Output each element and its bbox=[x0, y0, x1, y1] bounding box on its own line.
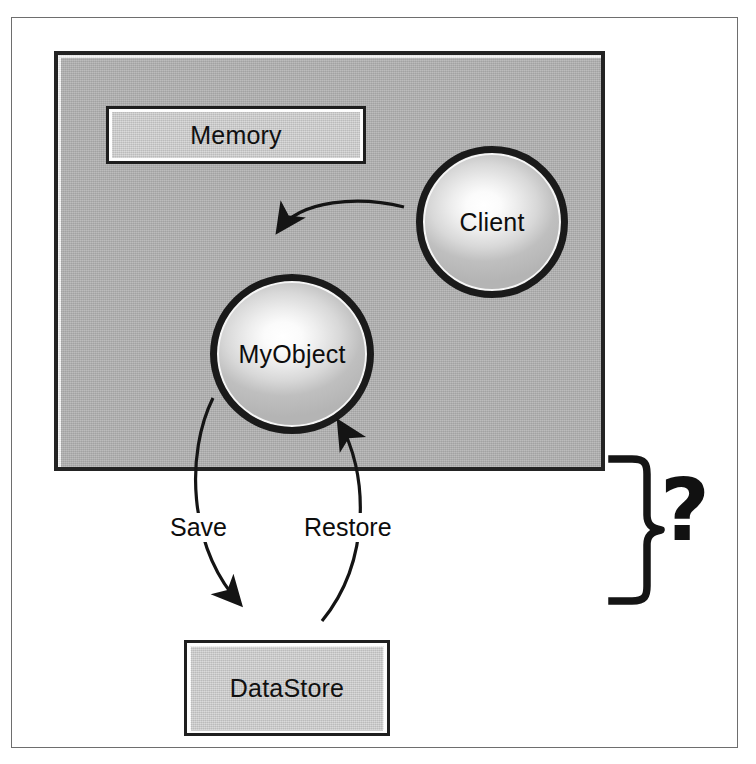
edge-label-restore: Restore bbox=[300, 513, 396, 542]
myobject-node[interactable]: MyObject bbox=[210, 274, 374, 434]
datastore-node-label: DataStore bbox=[230, 674, 344, 703]
client-node-label: Client bbox=[459, 208, 524, 237]
edge-label-save: Save bbox=[166, 513, 231, 542]
myobject-node-label: MyObject bbox=[238, 340, 345, 369]
figure-outer-frame: Memory Client MyObject DataStore bbox=[11, 17, 738, 748]
client-node[interactable]: Client bbox=[416, 146, 568, 298]
question-mark-annotation: ? bbox=[660, 467, 710, 553]
datastore-node[interactable]: DataStore bbox=[184, 640, 390, 736]
memory-label-box[interactable]: Memory bbox=[106, 106, 366, 164]
memory-box-label: Memory bbox=[190, 121, 281, 150]
